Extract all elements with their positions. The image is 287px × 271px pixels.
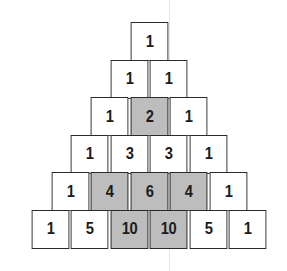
triangle-row-5: 15101051 — [30, 210, 269, 250]
triangle-cell: 1 — [229, 210, 267, 249]
triangle-cell: 2 — [130, 97, 168, 136]
triangle-row-2: 121 — [89, 97, 209, 137]
triangle-cell: 1 — [189, 135, 227, 174]
triangle-cell: 1 — [51, 172, 89, 211]
triangle-cell: 3 — [110, 135, 148, 174]
triangle-cell: 10 — [110, 210, 148, 249]
triangle-cell: 4 — [170, 172, 208, 211]
triangle-cell: 1 — [209, 172, 247, 211]
triangle-cell: 10 — [150, 210, 188, 249]
triangle-row-3: 1331 — [69, 135, 229, 175]
triangle-row-4: 14641 — [50, 172, 249, 212]
triangle-cell: 3 — [150, 135, 188, 174]
triangle-cell: 1 — [110, 60, 148, 99]
triangle-cell: 5 — [71, 210, 109, 249]
triangle-cell: 4 — [91, 172, 129, 211]
triangle-cell: 1 — [71, 135, 109, 174]
pascal-triangle: 11112113311464115101051 — [0, 0, 287, 271]
triangle-cell: 1 — [130, 22, 168, 61]
triangle-cell: 1 — [170, 97, 208, 136]
triangle-cell: 6 — [130, 172, 168, 211]
triangle-cell: 1 — [91, 97, 129, 136]
triangle-cell: 1 — [31, 210, 69, 249]
triangle-cell: 5 — [189, 210, 227, 249]
triangle-cell: 1 — [150, 60, 188, 99]
triangle-row-1: 11 — [109, 60, 190, 100]
triangle-row-0: 1 — [129, 22, 170, 62]
